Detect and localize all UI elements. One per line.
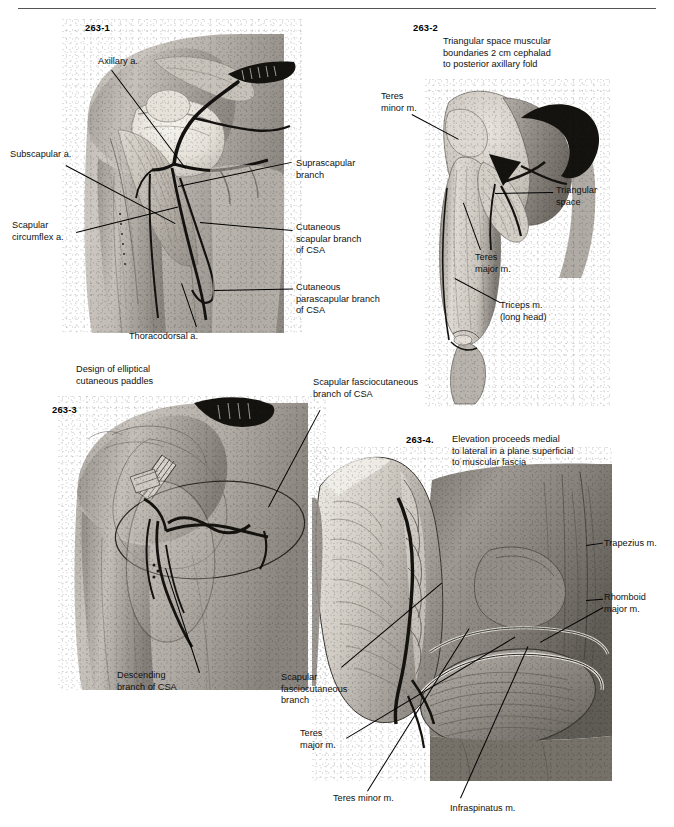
label-teres-major-263-4: Teres major m. [300, 728, 336, 751]
figure-263-1-number: 263-1 [85, 22, 110, 33]
label-thoracodorsal-artery: Thoracodorsal a. [129, 331, 198, 343]
figure-263-2-number: 263-2 [413, 22, 438, 33]
label-subscapular-artery: Subscapular a. [10, 149, 71, 161]
label-scapular-circumflex-artery: Scapular circumflex a. [12, 220, 64, 243]
label-rhomboid-major-muscle: Rhomboid major m. [604, 592, 646, 615]
header-rule [18, 8, 656, 9]
figure-263-3-number: 263-3 [52, 404, 77, 415]
label-descending-branch-csa: Descending branch of CSA [117, 670, 177, 693]
figure-263-2-caption: Triangular space muscular boundaries 2 c… [443, 36, 551, 71]
figure-263-2-illustration [425, 78, 610, 408]
figure-263-3-illustration [58, 395, 326, 690]
running-head-text [330, 0, 630, 6]
label-triangular-space: Triangular space [556, 185, 597, 208]
label-scapular-fasciocutaneous-branch-csa: Scapular fasciocutaneous branch of CSA [313, 377, 418, 400]
label-axillary-artery: Axillary a. [98, 56, 138, 68]
label-infraspinatus-muscle: Infraspinatus m. [450, 803, 515, 815]
figure-263-3-caption: Design of elliptical cutaneous paddles [76, 364, 153, 387]
label-cutaneous-scapular-branch: Cutaneous scapular branch of CSA [296, 222, 361, 257]
running-head [0, 0, 674, 12]
label-scapular-fasciocutaneous-branch: Scapular fasciocutaneous branch [281, 672, 347, 707]
label-cutaneous-parascapular-branch: Cutaneous parascapular branch of CSA [296, 282, 380, 317]
figure-263-4-number: 263-4. [406, 434, 434, 445]
label-teres-minor-263-4: Teres minor m. [333, 793, 394, 805]
label-teres-minor-263-2: Teres minor m. [381, 91, 417, 114]
label-teres-major-263-2: Teres major m. [475, 252, 511, 275]
atlas-page: 263-1 Axillary a. Subscapular a. Scapula… [0, 0, 674, 827]
label-suprascapular-branch: Suprascapular branch [296, 158, 355, 181]
label-trapezius-muscle: Trapezius m. [604, 538, 657, 550]
figure-263-4-caption: Elevation proceeds medial to lateral in … [452, 434, 574, 469]
label-triceps-263-2: Triceps m. (long head) [500, 300, 546, 323]
